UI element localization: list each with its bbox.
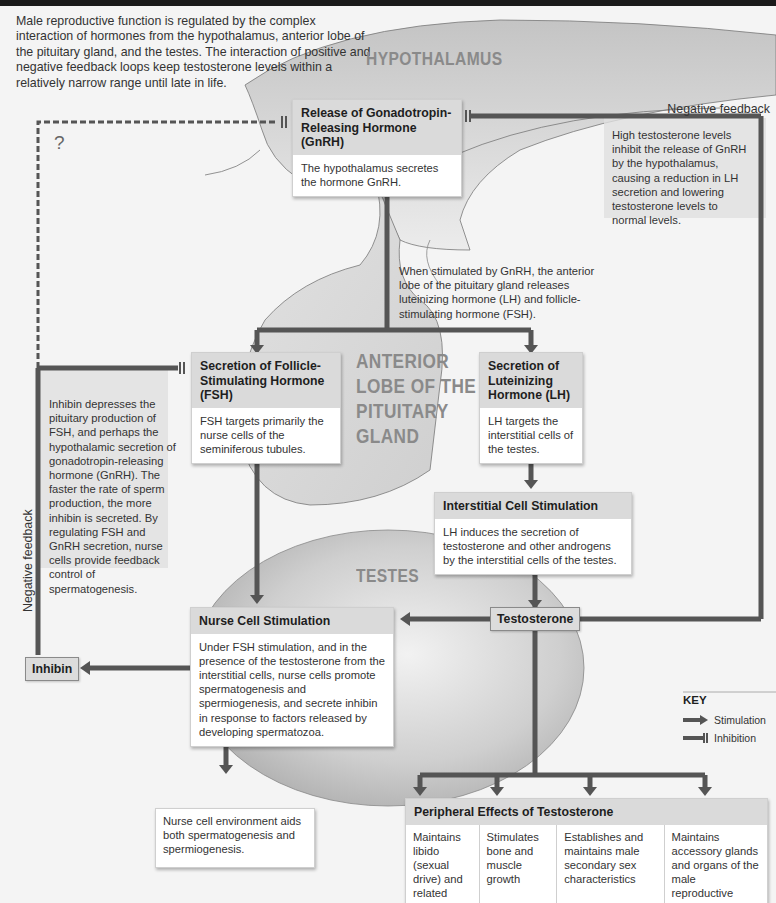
- pituitary-label-line: PITUITARY: [356, 398, 476, 423]
- stimulation-arrow-icon: [683, 714, 709, 726]
- effect-item: Maintains accessory glands and organs of…: [665, 825, 767, 903]
- nurse-cell-title: Nurse Cell Stimulation: [191, 608, 393, 634]
- pituitary-release-text: When stimulated by GnRH, the anterior lo…: [399, 264, 599, 321]
- interstitial-box: Interstitial Cell Stimulation LH induces…: [434, 492, 632, 575]
- key-label: Stimulation: [714, 714, 766, 726]
- pituitary-label-line: GLAND: [356, 423, 476, 448]
- testes-label: TESTES: [356, 565, 419, 587]
- hypothalamus-label: HYPOTHALAMUS: [366, 48, 502, 70]
- negative-feedback-right-label: Negative feedback: [586, 102, 770, 116]
- nurse-cell-body: Under FSH stimulation, and in the presen…: [191, 634, 393, 746]
- gnrh-body: The hypothalamus secretes the hormone Gn…: [293, 155, 461, 196]
- key-legend: KEY Stimulation Inhibition: [683, 694, 773, 747]
- intro-text: Male reproductive function is regulated …: [16, 14, 376, 91]
- inhibin-tag: Inhibin: [25, 657, 79, 681]
- testosterone-tag: Testosterone: [490, 607, 580, 631]
- gnrh-box: Release of Gonadotropin-Releasing Hormon…: [292, 99, 462, 197]
- interstitial-body: LH induces the secretion of testosterone…: [435, 519, 631, 575]
- pituitary-label-line: LOBE OF THE: [356, 373, 476, 398]
- key-label: Inhibition: [714, 732, 756, 744]
- gnrh-title: Release of Gonadotropin-Releasing Hormon…: [293, 100, 461, 155]
- nurse-env-body: Nurse cell environment aids both spermat…: [156, 809, 314, 867]
- peripheral-effects-box: Peripheral Effects of Testosterone Maint…: [405, 798, 768, 903]
- fsh-box: Secretion of Follicle-Stimulating Hormon…: [191, 352, 341, 464]
- negative-feedback-left-label: Negative feedback: [21, 509, 35, 612]
- key-title: KEY: [683, 694, 773, 706]
- interstitial-title: Interstitial Cell Stimulation: [435, 493, 631, 519]
- lh-title: Secretion of Luteinizing Hormone (LH): [480, 353, 582, 408]
- key-item-stimulation: Stimulation: [683, 711, 773, 729]
- effect-item: Maintains libido (sexual drive) and rela…: [406, 825, 480, 903]
- nurse-env-box: Nurse cell environment aids both spermat…: [155, 808, 315, 868]
- effect-item: Establishes and maintains male secondary…: [557, 825, 664, 903]
- fsh-title: Secretion of Follicle-Stimulating Hormon…: [192, 353, 340, 408]
- testosterone-feedback-text: High testosterone levels inhibit the rel…: [612, 128, 754, 227]
- effect-item: Stimulates bone and muscle growth: [480, 825, 558, 903]
- lh-body: LH targets the interstitial cells of the…: [480, 408, 582, 464]
- fsh-body: FSH targets primarily the nurse cells of…: [192, 408, 340, 464]
- unknown-mark: ?: [54, 132, 65, 154]
- nurse-cell-box: Nurse Cell Stimulation Under FSH stimula…: [190, 607, 394, 747]
- peripheral-title: Peripheral Effects of Testosterone: [406, 799, 767, 825]
- inhibition-bar-icon: [683, 732, 709, 744]
- pituitary-label: ANTERIOR LOBE OF THE PITUITARY GLAND: [356, 348, 476, 448]
- inhibin-feedback-text: Inhibin depresses the pituitary producti…: [49, 397, 177, 596]
- pituitary-label-line: ANTERIOR: [356, 348, 476, 373]
- lh-box: Secretion of Luteinizing Hormone (LH) LH…: [479, 352, 583, 464]
- key-item-inhibition: Inhibition: [683, 729, 773, 747]
